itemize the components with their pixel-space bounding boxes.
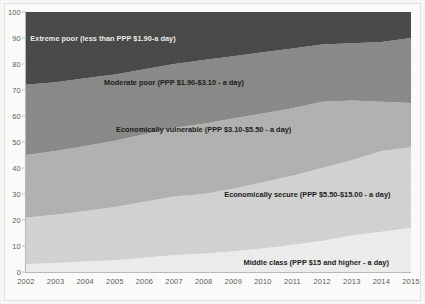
y-tick-label: 60 [12,112,21,121]
x-tick-label: 2011 [284,277,301,286]
y-tick-mark [22,246,26,247]
area-series-group [26,12,411,272]
x-tick-label: 2003 [47,277,65,286]
y-tick-label: 70 [12,86,21,95]
y-tick-label: 10 [12,242,21,251]
x-tick-label: 2004 [76,277,94,286]
x-tick-label: 2007 [165,277,183,286]
y-tick-label: 80 [12,60,21,69]
y-tick-mark [22,168,26,169]
plot-wrapper: 0102030405060708090100 20022003200420052… [26,12,411,272]
x-tick-label: 2002 [17,277,35,286]
x-tick-label: 2005 [106,277,124,286]
y-tick-mark [22,38,26,39]
y-tick-mark [22,12,26,13]
y-tick-label: 90 [12,34,21,43]
y-tick-mark [22,64,26,65]
y-tick-label: 0 [17,268,21,277]
y-tick-label: 40 [12,164,21,173]
stacked-area-plot [26,12,411,272]
chart-figure: 0102030405060708090100 20022003200420052… [0,0,425,304]
y-tick-mark [22,116,26,117]
y-tick-mark [22,90,26,91]
x-tick-label: 2009 [225,277,243,286]
x-tick-label: 2013 [343,277,361,286]
x-tick-label: 2012 [313,277,331,286]
y-tick-label: 30 [12,190,21,199]
y-tick-mark [22,272,26,273]
x-axis-line [25,272,411,273]
y-tick-mark [22,194,26,195]
x-tick-label: 2014 [373,277,391,286]
y-tick-label: 100 [8,8,21,17]
x-tick-label: 2010 [254,277,272,286]
x-tick-label: 2015 [402,277,420,286]
y-tick-mark [22,220,26,221]
x-tick-label: 2008 [195,277,213,286]
y-tick-label: 50 [12,138,21,147]
y-tick-mark [22,142,26,143]
x-tick-label: 2006 [136,277,154,286]
y-tick-label: 20 [12,216,21,225]
